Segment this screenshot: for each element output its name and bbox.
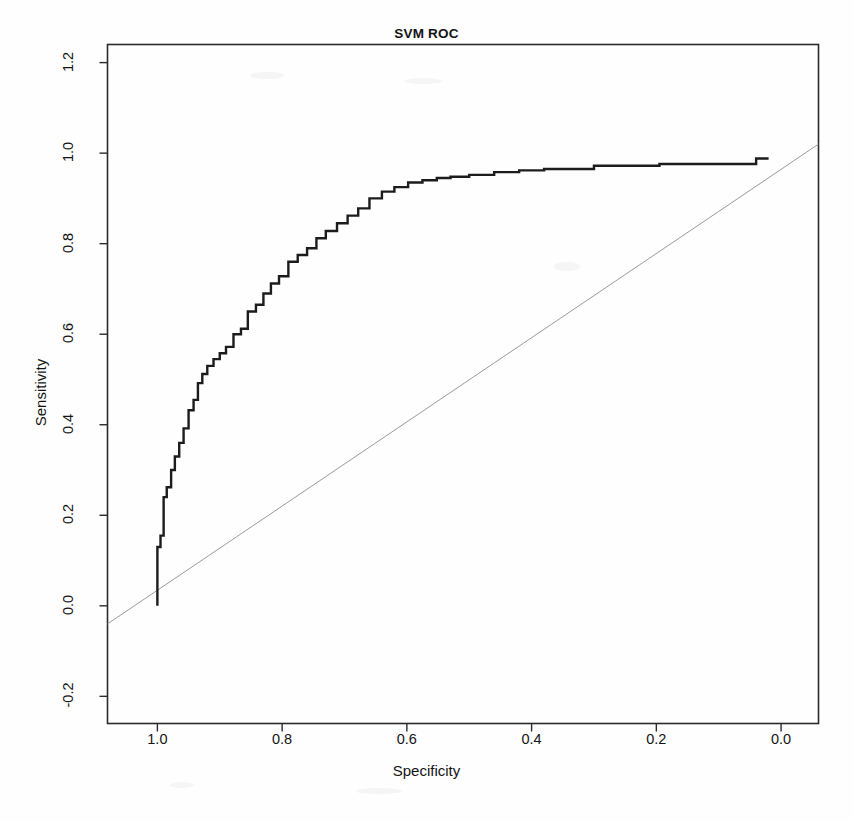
- y-tick-label: 0.8: [60, 221, 76, 265]
- y-tick-label: 0.6: [60, 311, 76, 355]
- y-tick-label: 0.2: [60, 492, 76, 536]
- y-tick-label: 0.4: [60, 402, 76, 446]
- x-tick-label: 0.0: [751, 731, 811, 747]
- x-axis-title: Specificity: [0, 762, 853, 779]
- y-axis-ticks: [100, 63, 108, 697]
- x-tick-label: 0.8: [252, 731, 312, 747]
- y-tick-label: 0.0: [60, 583, 76, 627]
- roc-chart-figure: SVM ROC 1.00.80.60.40.20.0 -0.20.00.20.4…: [0, 0, 853, 822]
- x-tick-label: 0.6: [377, 731, 437, 747]
- x-axis-ticks: [157, 724, 781, 732]
- chance-diagonal-line: [108, 144, 819, 624]
- y-tick-label: -0.2: [60, 673, 76, 717]
- y-tick-label: 1.0: [60, 130, 76, 174]
- x-tick-label: 1.0: [127, 731, 187, 747]
- x-tick-label: 0.4: [502, 731, 562, 747]
- y-axis-title: Sensitivity: [32, 293, 49, 493]
- y-tick-label: 1.2: [60, 40, 76, 84]
- x-tick-label: 0.2: [626, 731, 686, 747]
- roc-curve-line: [157, 159, 768, 606]
- roc-plot-canvas: [0, 0, 853, 822]
